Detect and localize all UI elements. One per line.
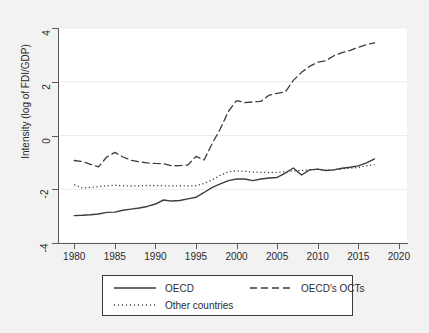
x-tick-mark <box>399 244 400 249</box>
plot-svg <box>58 28 407 243</box>
x-tick-label: 1995 <box>173 251 219 262</box>
y-axis-line <box>58 28 59 244</box>
legend-key-solid-icon <box>113 282 157 294</box>
series-line-oecd <box>74 159 374 216</box>
x-tick-mark <box>155 244 156 249</box>
x-tick-mark <box>358 244 359 249</box>
x-tick-label: 2015 <box>335 251 381 262</box>
y-tick-mark <box>52 28 58 29</box>
y-tick-label-text: 0 <box>41 138 53 144</box>
x-tick-label: 1985 <box>92 251 138 262</box>
legend-key-dotted-icon <box>113 299 157 311</box>
chart-legend: OECD OECD's OCTs Other countries <box>102 275 353 316</box>
y-tick-label-text: -4 <box>40 244 52 253</box>
x-tick-label: 1990 <box>132 251 178 262</box>
legend-label-oecd: OECD <box>165 283 194 294</box>
legend-label-oecds-octs: OECD's OCTs <box>301 283 365 294</box>
y-tick-mark <box>52 136 58 137</box>
x-tick-mark <box>277 244 278 249</box>
x-tick-label: 2005 <box>254 251 300 262</box>
legend-entry-oecds-octs[interactable]: OECD's OCTs <box>249 281 365 295</box>
y-tick-label-text: 4 <box>41 30 53 36</box>
y-tick-mark <box>52 82 58 83</box>
chart-figure: -4-2024 19801985199019952000200520102015… <box>0 0 429 333</box>
y-tick-label-text: 2 <box>41 84 53 90</box>
gridlines <box>58 28 407 243</box>
plot-area <box>58 28 407 243</box>
legend-key-dashed-icon <box>249 282 293 294</box>
y-tick-label-text: -2 <box>40 190 52 199</box>
x-tick-mark <box>115 244 116 249</box>
x-tick-label: 1980 <box>51 251 97 262</box>
x-tick-label: 2000 <box>214 251 260 262</box>
y-axis-title: Intensity (log of FDI/GDP) <box>20 17 31 187</box>
x-tick-label: 2020 <box>376 251 422 262</box>
y-tick-label: -4 <box>20 237 50 249</box>
x-axis-line <box>58 243 408 244</box>
series-line-other-countries <box>74 165 374 188</box>
y-tick-mark <box>52 243 58 244</box>
x-tick-mark <box>318 244 319 249</box>
x-tick-label: 2010 <box>295 251 341 262</box>
legend-entry-other-countries[interactable]: Other countries <box>113 298 233 312</box>
series-line-oecd-s-octs <box>74 43 374 167</box>
legend-label-other-countries: Other countries <box>165 300 233 311</box>
y-tick-mark <box>52 189 58 190</box>
x-tick-mark <box>237 244 238 249</box>
x-tick-mark <box>196 244 197 249</box>
legend-entry-oecd[interactable]: OECD <box>113 281 194 295</box>
x-tick-mark <box>74 244 75 249</box>
